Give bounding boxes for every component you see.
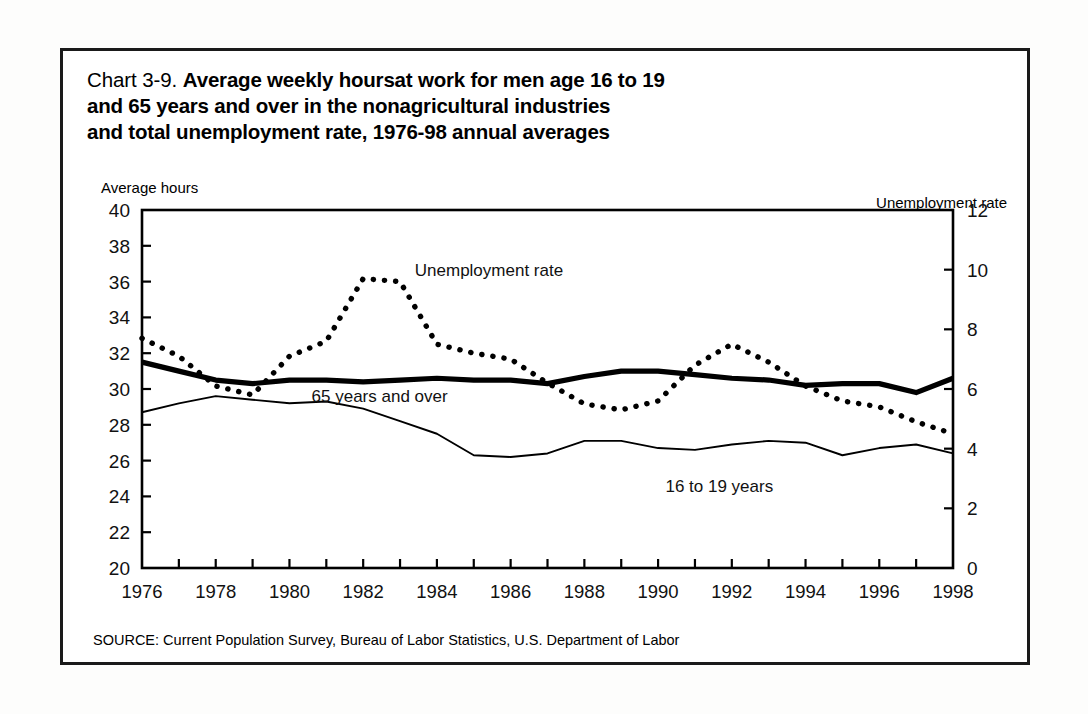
right-axis-tick-label: 0 xyxy=(967,558,978,579)
series-annotation: Unemployment rate xyxy=(415,261,563,280)
series-line-16-to-19-years xyxy=(142,396,953,457)
right-axis-tick-label: 8 xyxy=(967,319,978,340)
right-axis-tick-label: 4 xyxy=(967,439,978,460)
series-line-65-years-and-over xyxy=(142,362,953,392)
left-axis-tick-label: 26 xyxy=(109,451,130,472)
x-axis-tick-label: 1990 xyxy=(638,581,679,602)
left-axis-tick-label: 32 xyxy=(109,343,130,364)
x-axis-tick-label: 1978 xyxy=(195,581,236,602)
left-axis-tick-label: 24 xyxy=(109,486,131,507)
x-axis-tick-label: 1976 xyxy=(121,581,162,602)
source-note: SOURCE: Current Population Survey, Burea… xyxy=(93,632,679,648)
x-axis-tick-label: 1992 xyxy=(711,581,752,602)
x-axis-tick-label: 1996 xyxy=(859,581,900,602)
right-axis-tick-label: 2 xyxy=(967,498,978,519)
left-axis-tick-label: 36 xyxy=(109,272,130,293)
series-line-unemployment-rate xyxy=(142,279,953,434)
plot-area: 2022242628303234363840024681012197619781… xyxy=(63,51,1033,668)
x-axis-tick-label: 1980 xyxy=(269,581,310,602)
left-axis-tick-label: 28 xyxy=(109,415,130,436)
x-axis-tick-label: 1988 xyxy=(564,581,605,602)
left-axis-tick-label: 30 xyxy=(109,379,130,400)
chart-plot-svg: 2022242628303234363840024681012197619781… xyxy=(63,51,1033,668)
x-axis-tick-label: 1986 xyxy=(490,581,531,602)
right-axis-tick-label: 10 xyxy=(967,260,988,281)
left-axis-tick-label: 38 xyxy=(109,236,130,257)
chart-figure-frame: Chart 3-9. Average weekly hoursat work f… xyxy=(60,48,1030,665)
series-annotation: 65 years and over xyxy=(312,387,448,406)
left-axis-tick-label: 22 xyxy=(109,522,130,543)
x-axis-tick-label: 1982 xyxy=(343,581,384,602)
x-axis-tick-label: 1998 xyxy=(932,581,973,602)
left-axis-tick-label: 20 xyxy=(109,558,130,579)
right-axis-tick-label: 12 xyxy=(967,200,988,221)
left-axis-tick-label: 34 xyxy=(109,307,131,328)
x-axis-tick-label: 1994 xyxy=(785,581,826,602)
right-axis-tick-label: 6 xyxy=(967,379,978,400)
left-axis-tick-label: 40 xyxy=(109,200,130,221)
series-annotation: 16 to 19 years xyxy=(665,477,773,496)
x-axis-tick-label: 1984 xyxy=(416,581,457,602)
